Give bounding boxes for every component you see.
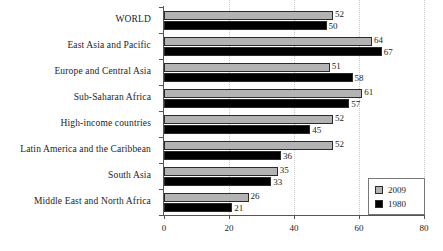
bar-value-label: 57: [349, 100, 360, 109]
category-label: Europe and Central Asia: [0, 66, 151, 77]
bar-value-label: 36: [281, 152, 292, 161]
category-label: WORLD: [0, 14, 151, 25]
bar-value-label: 50: [327, 22, 338, 31]
y-axis-tick: [159, 85, 164, 86]
bar-2009: [164, 167, 278, 176]
bar-2009: [164, 115, 333, 124]
bar-value-label: 52: [333, 140, 344, 149]
bar-value-label: 52: [333, 114, 344, 123]
x-axis-tick-label: 40: [290, 223, 299, 233]
bar-1980: [164, 73, 353, 82]
bar-1980: [164, 21, 327, 30]
category-label: Latin America and the Caribbean: [0, 144, 151, 155]
x-axis-tick: [424, 215, 425, 219]
bar-value-label: 52: [333, 10, 344, 19]
bar-1980: [164, 151, 281, 160]
y-axis-tick: [159, 137, 164, 138]
y-axis-tick: [159, 33, 164, 34]
category-label: Sub-Saharan Africa: [0, 92, 151, 103]
x-axis-tick-label: 60: [355, 223, 364, 233]
category-label: Middle East and North Africa: [0, 196, 151, 207]
y-axis-tick: [159, 111, 164, 112]
x-axis-tick: [229, 215, 230, 219]
bar-1980: [164, 203, 232, 212]
category-label: South Asia: [0, 170, 151, 181]
x-axis-tick-label: 0: [162, 223, 167, 233]
bar-1980: [164, 99, 349, 108]
y-axis-tick: [159, 59, 164, 60]
bar-2009: [164, 193, 249, 202]
bar-value-label: 26: [249, 192, 260, 201]
bar-2009: [164, 63, 330, 72]
legend-item-2009: 2009: [375, 183, 424, 197]
bar-value-label: 51: [330, 62, 341, 71]
bar-value-label: 61: [362, 88, 373, 97]
category-axis-labels: WORLDEast Asia and PacificEurope and Cen…: [0, 7, 158, 215]
x-axis-tick-label: 20: [225, 223, 234, 233]
legend-item-1980: 1980: [375, 197, 424, 211]
bar-1980: [164, 125, 310, 134]
x-axis-tick-label: 80: [420, 223, 429, 233]
bar-value-label: 21: [232, 204, 243, 213]
legend: 20091980: [368, 178, 425, 215]
legend-swatch-icon: [375, 186, 383, 194]
bar-2009: [164, 11, 333, 20]
y-axis-tick: [159, 189, 164, 190]
bar-1980: [164, 47, 382, 56]
y-axis-tick: [159, 7, 164, 8]
bar-value-label: 64: [372, 36, 383, 45]
bar-value-label: 58: [353, 74, 364, 83]
legend-label: 1980: [388, 200, 406, 209]
category-label: High-income countries: [0, 118, 151, 129]
bar-value-label: 35: [278, 166, 289, 175]
x-axis-tick: [164, 215, 165, 219]
bar-2009: [164, 141, 333, 150]
x-axis-tick: [294, 215, 295, 219]
y-axis-tick: [159, 163, 164, 164]
bar-chart: WORLDEast Asia and PacificEurope and Cen…: [0, 0, 443, 251]
legend-label: 2009: [388, 186, 406, 195]
bar-1980: [164, 177, 271, 186]
bar-value-label: 45: [310, 126, 321, 135]
category-label: East Asia and Pacific: [0, 40, 151, 51]
legend-swatch-icon: [375, 200, 383, 208]
x-axis-tick: [359, 215, 360, 219]
gridline: [294, 0, 295, 215]
bar-value-label: 33: [271, 178, 282, 187]
bar-2009: [164, 37, 372, 46]
bar-value-label: 67: [382, 48, 393, 57]
bar-2009: [164, 89, 362, 98]
